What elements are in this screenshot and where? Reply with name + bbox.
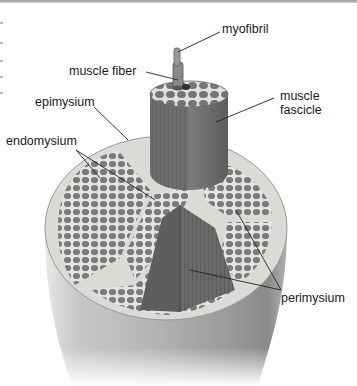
label-muscle-fascicle-line1: muscle	[280, 89, 320, 103]
label-perimysium: perimysium	[281, 291, 345, 305]
label-muscle-fiber: muscle fiber	[69, 64, 136, 78]
label-myofibril: myofibril	[222, 22, 269, 36]
muscle-fascicle-column	[150, 81, 228, 190]
label-muscle-fascicle-line2: fascicle	[280, 103, 322, 117]
label-endomysium: endomysium	[6, 134, 77, 148]
muscle-diagram	[0, 0, 357, 386]
label-epimysium: epimysium	[35, 95, 95, 109]
